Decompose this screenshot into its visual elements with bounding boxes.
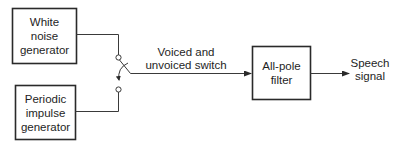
all-pole-filter-block: All-pole filter	[253, 47, 311, 100]
switch-toggle-arrow-icon	[119, 63, 128, 80]
all-pole-filter-label-line-1: All-pole	[262, 60, 300, 72]
all-pole-filter-label-line-2: filter	[271, 74, 293, 86]
switch-terminal-bottom	[116, 87, 121, 92]
switch-label-line-2: unvoiced switch	[145, 59, 226, 71]
periodic-impulse-label-line-1: Periodic	[25, 93, 67, 105]
periodic-impulse-label-line-3: generator	[21, 121, 70, 133]
speech-signal-label-line-2: signal	[355, 70, 385, 82]
white-noise-wire	[77, 35, 119, 56]
switch-label-line-1: Voiced and	[158, 46, 215, 58]
periodic-impulse-wire	[76, 92, 119, 112]
white-noise-label-line-2: noise	[31, 30, 59, 42]
speech-signal-label-line-1: Speech	[350, 57, 389, 69]
white-noise-generator-block: White noise generator	[13, 9, 77, 64]
switch-arm	[120, 60, 131, 74]
white-noise-label-line-3: generator	[20, 44, 69, 56]
white-noise-label-line-1: White	[30, 16, 59, 28]
speech-production-block-diagram: White noise generator Periodic impulse g…	[0, 0, 401, 150]
periodic-impulse-label-line-2: impulse	[26, 107, 66, 119]
periodic-impulse-generator-block: Periodic impulse generator	[16, 86, 76, 140]
switch-terminal-top	[116, 55, 121, 60]
